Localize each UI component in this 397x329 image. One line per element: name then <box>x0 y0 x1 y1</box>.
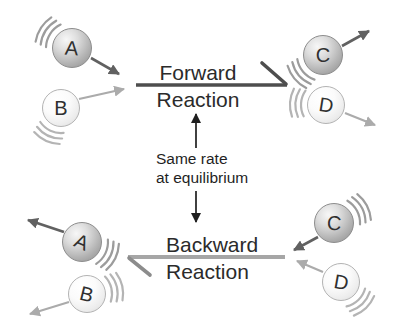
vibration-arc-icon <box>105 277 112 302</box>
molecule-d-bottom-label: D <box>332 271 350 293</box>
equilibrium-note-line2: at equilibrium <box>156 168 248 187</box>
vibration-arc-icon <box>288 66 307 88</box>
vibration-arc-icon <box>296 89 300 117</box>
equilibrium-diagram: A B C D A B C D Forward Reaction Backwar… <box>0 0 397 329</box>
motion-arrow-a-forward-icon <box>91 58 119 74</box>
molecule-a-top: A <box>52 28 92 68</box>
motion-arrow-d-backward-icon <box>297 261 323 272</box>
molecule-a-top-label: A <box>65 38 80 59</box>
vibration-arc-icon <box>290 89 294 117</box>
vibration-arc-icon <box>301 91 305 117</box>
equilibrium-note-line1: Same rate <box>156 149 248 168</box>
motion-arrow-b-backward-icon <box>30 302 69 314</box>
molecule-d-top-label: D <box>317 94 334 116</box>
molecule-c-bottom-label: C <box>326 213 342 234</box>
molecule-b-bottom: B <box>68 275 106 313</box>
motion-arrow-c-backward-icon <box>294 237 318 250</box>
forward-label-line2: Reaction <box>157 89 240 110</box>
forward-label-line1: Forward <box>159 62 236 83</box>
equilibrium-note: Same rate at equilibrium <box>156 149 248 187</box>
motion-arrow-b-forward-icon <box>79 89 124 99</box>
motion-arrow-c-forward-icon <box>342 31 369 46</box>
backward-label-line2: Reaction <box>166 261 249 282</box>
molecule-d-top: D <box>307 86 345 124</box>
molecule-c-top-label: C <box>316 45 330 65</box>
molecule-c-bottom: C <box>314 203 354 243</box>
motion-arrow-d-forward-icon <box>345 113 375 125</box>
molecule-a-bottom-label: A <box>72 230 92 254</box>
molecule-b-top-label: B <box>54 98 67 118</box>
molecule-c-top: C <box>303 35 343 75</box>
molecule-b-bottom-label: B <box>78 283 96 306</box>
molecule-a-bottom: A <box>62 222 102 262</box>
molecule-d-bottom: D <box>322 263 360 301</box>
vibration-arc-icon <box>354 296 374 316</box>
motion-arrow-a-backward-icon <box>28 220 64 232</box>
backward-label-line1: Backward <box>166 234 258 255</box>
molecule-b-top: B <box>42 89 80 127</box>
